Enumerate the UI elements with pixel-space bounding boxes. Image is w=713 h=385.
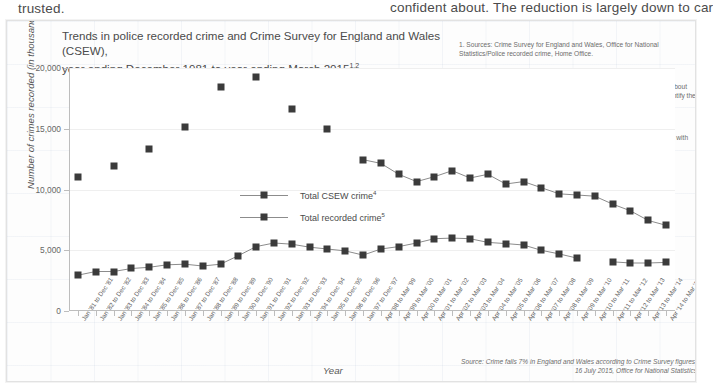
data-point[interactable] bbox=[342, 247, 349, 254]
data-point[interactable] bbox=[556, 250, 563, 257]
x-tick-mark bbox=[149, 311, 150, 316]
data-point[interactable] bbox=[395, 243, 402, 250]
data-point[interactable] bbox=[360, 156, 367, 163]
data-point[interactable] bbox=[449, 167, 456, 174]
x-tick-mark bbox=[114, 311, 115, 316]
data-point[interactable] bbox=[377, 160, 384, 167]
legend-label-csew: Total CSEW crime4 bbox=[300, 190, 376, 201]
data-point[interactable] bbox=[146, 264, 153, 271]
data-point[interactable] bbox=[645, 260, 652, 267]
data-point[interactable] bbox=[573, 255, 580, 262]
data-point[interactable] bbox=[538, 184, 545, 191]
x-tick-mark bbox=[506, 311, 507, 316]
page-text-fragment-right: confident about. The reduction is largel… bbox=[390, 0, 713, 15]
y-axis-title: Number of crimes recorded (in thousands) bbox=[25, 20, 36, 189]
data-point[interactable] bbox=[146, 146, 153, 153]
legend-line-csew bbox=[240, 195, 288, 196]
legend-label-recorded-footnote: 5 bbox=[382, 212, 385, 218]
data-point[interactable] bbox=[413, 239, 420, 246]
data-point[interactable] bbox=[253, 243, 260, 250]
data-point[interactable] bbox=[520, 242, 527, 249]
data-point[interactable] bbox=[538, 247, 545, 254]
legend-item-recorded[interactable]: Total recorded crime5 bbox=[240, 206, 385, 228]
data-point[interactable] bbox=[360, 252, 367, 259]
x-tick-mark bbox=[363, 311, 364, 316]
data-point[interactable] bbox=[609, 258, 616, 265]
x-tick-mark bbox=[399, 311, 400, 316]
legend-label-recorded-text: Total recorded crime bbox=[300, 213, 382, 223]
data-point[interactable] bbox=[324, 126, 331, 133]
data-point[interactable] bbox=[449, 235, 456, 242]
x-axis-title: Year bbox=[323, 365, 343, 376]
data-point[interactable] bbox=[627, 260, 634, 267]
x-tick-mark bbox=[78, 311, 79, 316]
legend-item-csew[interactable]: Total CSEW crime4 bbox=[240, 184, 385, 206]
x-tick-mark bbox=[185, 311, 186, 316]
data-point[interactable] bbox=[395, 171, 402, 178]
data-point[interactable] bbox=[306, 244, 313, 251]
data-point[interactable] bbox=[663, 222, 670, 229]
x-tick-mark bbox=[541, 311, 542, 316]
source-line-2: 16 July 2015, Office for National Statis… bbox=[575, 367, 696, 374]
y-tick-label: 15,000 bbox=[35, 124, 61, 134]
y-tick-label: 0 bbox=[56, 306, 61, 316]
legend-label-recorded: Total recorded crime5 bbox=[300, 212, 385, 223]
data-point[interactable] bbox=[591, 193, 598, 200]
page-body-text: trusted. confident about. The reduction … bbox=[0, 0, 700, 20]
data-point[interactable] bbox=[467, 235, 474, 242]
data-point[interactable] bbox=[92, 268, 99, 275]
data-point[interactable] bbox=[270, 239, 277, 246]
x-tick-mark bbox=[327, 311, 328, 316]
data-point[interactable] bbox=[502, 181, 509, 188]
data-point[interactable] bbox=[235, 252, 242, 259]
data-point[interactable] bbox=[74, 174, 81, 181]
x-tick-mark bbox=[221, 311, 222, 316]
data-point[interactable] bbox=[199, 263, 206, 270]
data-point[interactable] bbox=[573, 191, 580, 198]
data-point[interactable] bbox=[217, 84, 224, 91]
x-tick-mark bbox=[167, 311, 168, 316]
data-point[interactable] bbox=[467, 174, 474, 181]
data-point[interactable] bbox=[645, 217, 652, 224]
data-point[interactable] bbox=[377, 246, 384, 253]
legend-marker-recorded bbox=[261, 214, 268, 221]
x-tick-mark bbox=[434, 311, 435, 316]
x-tick-mark bbox=[524, 311, 525, 316]
x-tick-mark bbox=[577, 311, 578, 316]
x-tick-mark bbox=[274, 311, 275, 316]
x-tick-mark bbox=[666, 311, 667, 316]
data-point[interactable] bbox=[288, 106, 295, 113]
y-tick-label: 10,000 bbox=[35, 185, 61, 195]
data-point[interactable] bbox=[627, 207, 634, 214]
data-point[interactable] bbox=[288, 241, 295, 248]
data-point[interactable] bbox=[484, 171, 491, 178]
data-point[interactable] bbox=[181, 123, 188, 130]
data-point[interactable] bbox=[110, 163, 117, 170]
x-tick-mark bbox=[96, 311, 97, 316]
data-point[interactable] bbox=[431, 235, 438, 242]
y-tick-label: 5,000 bbox=[40, 245, 61, 255]
data-point[interactable] bbox=[110, 268, 117, 275]
data-point[interactable] bbox=[484, 239, 491, 246]
data-point[interactable] bbox=[556, 190, 563, 197]
y-tick-mark bbox=[64, 311, 69, 312]
data-point[interactable] bbox=[181, 261, 188, 268]
legend-label-csew-text: Total CSEW crime bbox=[300, 191, 373, 201]
data-point[interactable] bbox=[609, 201, 616, 208]
x-tick-mark bbox=[310, 311, 311, 316]
data-point[interactable] bbox=[217, 261, 224, 268]
legend-label-csew-footnote: 4 bbox=[373, 190, 376, 196]
data-point[interactable] bbox=[164, 261, 171, 268]
data-point[interactable] bbox=[520, 178, 527, 185]
data-point[interactable] bbox=[253, 74, 260, 81]
data-point[interactable] bbox=[128, 265, 135, 272]
x-tick-mark bbox=[595, 311, 596, 316]
data-point[interactable] bbox=[324, 246, 331, 253]
data-point[interactable] bbox=[74, 272, 81, 279]
data-point[interactable] bbox=[431, 173, 438, 180]
legend-marker-csew bbox=[261, 192, 268, 199]
data-point[interactable] bbox=[663, 259, 670, 266]
data-point[interactable] bbox=[502, 240, 509, 247]
data-point[interactable] bbox=[413, 178, 420, 185]
x-tick-mark bbox=[630, 311, 631, 316]
